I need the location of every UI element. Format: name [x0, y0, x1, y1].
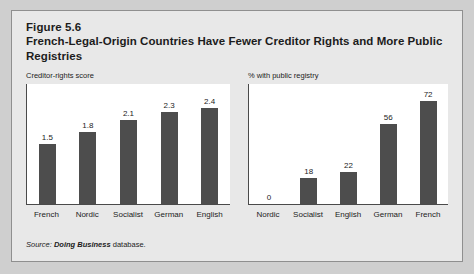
- figure-title: French-Legal-Origin Countries Have Fewer…: [26, 34, 446, 63]
- chart-left-plot-area: 1.5 1.8 2.1 2.3: [26, 84, 230, 205]
- bar-rect: [420, 101, 437, 204]
- category-label: English: [189, 209, 230, 220]
- chart-left-axis-caption: Creditor-rights score: [26, 71, 230, 81]
- chart-left-category-labels: French Nordic Socialist German English: [26, 209, 230, 220]
- category-label: Socialist: [108, 209, 149, 220]
- category-label: German: [148, 209, 189, 220]
- bar-rect: [340, 172, 357, 204]
- bar-value-label: 18: [304, 167, 313, 177]
- figure-panel: Figure 5.6 French-Legal-Origin Countries…: [11, 10, 463, 262]
- category-label: Nordic: [67, 209, 108, 220]
- chart-right-axis-caption: % with public registry: [248, 71, 448, 81]
- chart-right-category-labels: Nordic Socialist English German French: [248, 209, 448, 220]
- bar-rect: [300, 178, 317, 204]
- category-label: French: [408, 209, 448, 220]
- bar-slot[interactable]: 0: [249, 84, 289, 204]
- bar-rect: [120, 120, 137, 204]
- source-database-name: Doing Business: [54, 240, 111, 249]
- bar-value-label: 2.3: [164, 101, 175, 111]
- source-label: Source:: [26, 240, 52, 249]
- bar-rect: [161, 112, 178, 204]
- source-tail: database.: [111, 240, 146, 249]
- category-label: English: [328, 209, 368, 220]
- bar-rect: [79, 132, 96, 204]
- chart-public-registry: % with public registry 0 18 22: [238, 71, 462, 243]
- bar-slot[interactable]: 18: [289, 84, 329, 204]
- bar-rect: [201, 108, 218, 204]
- bar-value-label: 0: [267, 193, 271, 203]
- bar-slot[interactable]: 1.5: [27, 84, 68, 204]
- figure-header: Figure 5.6 French-Legal-Origin Countries…: [12, 11, 462, 63]
- bar-slot[interactable]: 22: [329, 84, 369, 204]
- bar-slot[interactable]: 72: [408, 84, 448, 204]
- source-note: Source: Doing Business database.: [26, 240, 146, 250]
- bar-value-label: 1.8: [82, 121, 93, 131]
- chart-creditor-rights-score: Creditor-rights score 1.5 1.8 2.1: [12, 71, 238, 243]
- category-label: German: [368, 209, 408, 220]
- chart-right-bars: 0 18 22 56: [249, 84, 448, 204]
- bar-slot[interactable]: 56: [368, 84, 408, 204]
- category-label: Socialist: [288, 209, 328, 220]
- charts-row: Creditor-rights score 1.5 1.8 2.1: [12, 71, 462, 243]
- bar-rect: [380, 124, 397, 204]
- bar-value-label: 56: [384, 113, 393, 123]
- bar-slot[interactable]: 2.3: [149, 84, 190, 204]
- category-label: Nordic: [248, 209, 288, 220]
- chart-right-plot-area: 0 18 22 56: [248, 84, 448, 205]
- bar-value-label: 22: [344, 161, 353, 171]
- bar-value-label: 72: [424, 90, 433, 100]
- bar-value-label: 1.5: [42, 133, 53, 143]
- figure-number: Figure 5.6: [26, 20, 448, 34]
- figure-root: Figure 5.6 French-Legal-Origin Countries…: [0, 0, 474, 274]
- bar-rect: [39, 144, 56, 204]
- bar-slot[interactable]: 2.1: [108, 84, 149, 204]
- bar-slot[interactable]: 2.4: [189, 84, 230, 204]
- category-label: French: [26, 209, 67, 220]
- bar-value-label: 2.1: [123, 109, 134, 119]
- chart-left-bars: 1.5 1.8 2.1 2.3: [27, 84, 230, 204]
- bar-slot[interactable]: 1.8: [68, 84, 109, 204]
- bar-value-label: 2.4: [204, 97, 215, 107]
